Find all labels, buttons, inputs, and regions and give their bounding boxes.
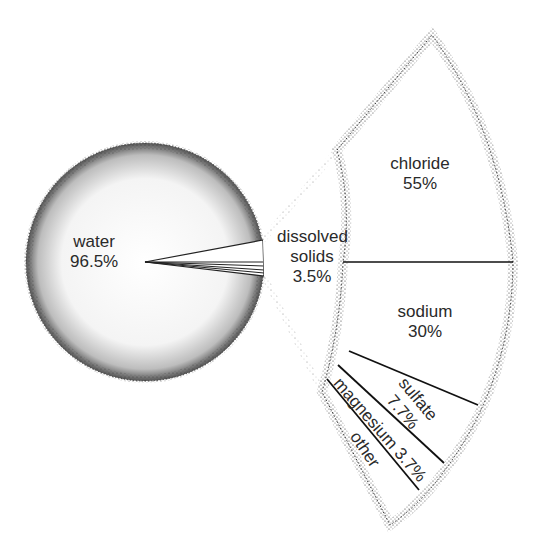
sodium-label: sodium 30% <box>390 302 460 342</box>
chloride-name: chloride <box>380 154 460 174</box>
water-name: water <box>70 232 118 252</box>
water-pct: 96.5% <box>70 252 118 272</box>
sodium-pct: 30% <box>390 322 460 342</box>
dissolved-name-line2: solids <box>277 247 347 267</box>
chloride-pct: 55% <box>380 174 460 194</box>
dissolved-solids-label: dissolved solids 3.5% <box>277 227 347 287</box>
sodium-name: sodium <box>390 302 460 322</box>
breakdown-fan <box>322 35 513 525</box>
pie-of-pie-diagram <box>0 0 542 556</box>
water-label: water 96.5% <box>70 232 118 272</box>
chloride-label: chloride 55% <box>380 154 460 194</box>
dissolved-pct: 3.5% <box>277 267 347 287</box>
dissolved-name-line1: dissolved <box>277 227 347 247</box>
